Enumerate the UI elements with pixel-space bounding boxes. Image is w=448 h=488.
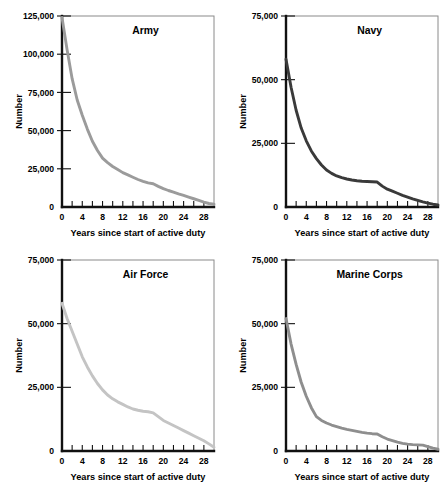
chart-army-panel-title: Army <box>132 25 159 36</box>
panel-army: 025,00050,00075,000100,000125,0000481216… <box>0 0 224 244</box>
chart-air-force-y-tick-label: 0 <box>49 446 54 456</box>
chart-army-x-axis-title: Years since start of active duty <box>71 228 207 238</box>
chart-marine-corps-x-tick-label: 12 <box>342 456 352 466</box>
chart-air-force-plot-frame <box>62 260 214 451</box>
chart-navy-panel-title: Navy <box>357 25 382 36</box>
chart-army-x-tick-label: 8 <box>100 212 105 222</box>
chart-air-force: 025,00050,00075,0000481216202428Air Forc… <box>0 244 224 488</box>
chart-navy-x-tick-label: 24 <box>403 212 413 222</box>
chart-air-force-x-tick-label: 16 <box>138 456 148 466</box>
chart-marine-corps-x-tick-label: 4 <box>304 456 309 466</box>
chart-air-force-y-tick-label: 25,000 <box>28 382 55 392</box>
chart-air-force-x-tick-label: 28 <box>199 456 209 466</box>
chart-navy-body: 025,00050,00075,0000481216202428NavyYear… <box>238 11 438 238</box>
chart-army-y-tick-label: 0 <box>49 202 54 212</box>
chart-air-force-y-axis-title: Number <box>14 338 24 373</box>
figure-root: 025,00050,00075,000100,000125,0000481216… <box>0 0 448 488</box>
chart-marine-corps-y-tick-label: 50,000 <box>252 319 279 329</box>
chart-navy: 025,00050,00075,0000481216202428NavyYear… <box>224 0 448 244</box>
chart-air-force-x-tick-label: 4 <box>80 456 85 466</box>
chart-army-y-tick-label: 125,000 <box>23 11 54 21</box>
chart-navy-x-tick-label: 0 <box>284 212 289 222</box>
chart-marine-corps-x-tick-label: 0 <box>284 456 289 466</box>
chart-marine-corps-x-tick-label: 16 <box>362 456 372 466</box>
chart-army-x-tick-label: 20 <box>159 212 169 222</box>
chart-army-x-tick-label: 4 <box>80 212 85 222</box>
chart-navy-plot-frame <box>286 16 438 207</box>
chart-marine-corps-y-axis-title: Number <box>238 338 248 373</box>
chart-marine-corps: 025,00050,00075,0000481216202428Marine C… <box>224 244 448 488</box>
chart-army-y-tick-label: 75,000 <box>28 88 55 98</box>
chart-marine-corps-x-tick-label: 20 <box>383 456 393 466</box>
chart-marine-corps-x-tick-label: 24 <box>403 456 413 466</box>
chart-army-x-tick-label: 0 <box>60 212 65 222</box>
chart-air-force-x-tick-label: 24 <box>179 456 189 466</box>
chart-navy-y-axis-title: Number <box>238 94 248 129</box>
chart-navy-x-tick-label: 12 <box>342 212 352 222</box>
chart-navy-y-tick-label: 75,000 <box>252 11 279 21</box>
panel-marine-corps: 025,00050,00075,0000481216202428Marine C… <box>224 244 448 488</box>
chart-air-force-x-tick-label: 0 <box>60 456 65 466</box>
chart-air-force-x-tick-label: 20 <box>159 456 169 466</box>
chart-air-force-x-axis-title: Years since start of active duty <box>71 472 207 482</box>
chart-air-force-y-tick-label: 50,000 <box>28 319 55 329</box>
chart-navy-x-tick-label: 16 <box>362 212 372 222</box>
chart-marine-corps-x-axis-title: Years since start of active duty <box>295 472 431 482</box>
chart-army-y-axis-title: Number <box>14 94 24 129</box>
chart-navy-x-tick-label: 20 <box>383 212 393 222</box>
chart-marine-corps-y-tick-label: 75,000 <box>252 255 279 265</box>
chart-army-x-tick-label: 28 <box>199 212 209 222</box>
chart-marine-corps-panel-title: Marine Corps <box>336 269 403 280</box>
chart-air-force-panel-title: Air Force <box>123 269 169 280</box>
chart-navy-x-axis-title: Years since start of active duty <box>295 228 431 238</box>
chart-navy-x-tick-label: 28 <box>423 212 433 222</box>
chart-army-series-line <box>62 18 214 205</box>
chart-air-force-body: 025,00050,00075,0000481216202428Air Forc… <box>14 255 214 482</box>
chart-air-force-x-tick-label: 8 <box>100 456 105 466</box>
chart-army-x-tick-label: 12 <box>118 212 128 222</box>
chart-marine-corps-plot-frame <box>286 260 438 451</box>
panel-air-force: 025,00050,00075,0000481216202428Air Forc… <box>0 244 224 488</box>
chart-air-force-series-line <box>62 303 214 447</box>
chart-army-y-tick-label: 25,000 <box>28 164 55 174</box>
chart-marine-corps-series-line <box>286 319 438 450</box>
chart-navy-x-tick-label: 4 <box>304 212 309 222</box>
chart-army-x-tick-label: 16 <box>138 212 148 222</box>
chart-navy-y-tick-label: 25,000 <box>252 138 279 148</box>
chart-navy-y-tick-label: 50,000 <box>252 75 279 85</box>
chart-army-body: 025,00050,00075,000100,000125,0000481216… <box>14 11 214 238</box>
chart-army: 025,00050,00075,000100,000125,0000481216… <box>0 0 224 244</box>
chart-army-y-tick-label: 100,000 <box>23 49 54 59</box>
chart-air-force-x-tick-label: 12 <box>118 456 128 466</box>
chart-army-y-tick-label: 50,000 <box>28 126 55 136</box>
chart-marine-corps-x-tick-label: 8 <box>324 456 329 466</box>
chart-navy-series-line <box>286 59 438 205</box>
chart-army-x-tick-label: 24 <box>179 212 189 222</box>
chart-marine-corps-x-tick-label: 28 <box>423 456 433 466</box>
chart-navy-y-tick-label: 0 <box>273 202 278 212</box>
chart-marine-corps-y-tick-label: 25,000 <box>252 382 279 392</box>
panel-navy: 025,00050,00075,0000481216202428NavyYear… <box>224 0 448 244</box>
chart-navy-x-tick-label: 8 <box>324 212 329 222</box>
chart-marine-corps-body: 025,00050,00075,0000481216202428Marine C… <box>238 255 438 482</box>
chart-marine-corps-y-tick-label: 0 <box>273 446 278 456</box>
chart-air-force-y-tick-label: 75,000 <box>28 255 55 265</box>
